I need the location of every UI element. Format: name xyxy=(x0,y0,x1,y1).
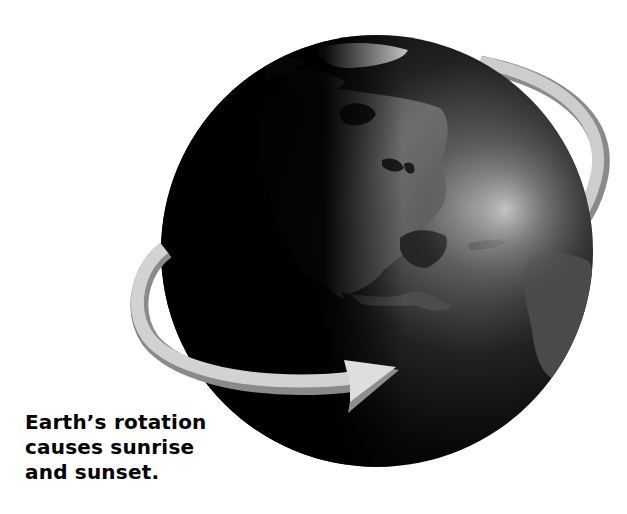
caption-line-1: Earth’s rotation xyxy=(25,410,225,435)
caption-line-3: and sunset. xyxy=(25,460,225,485)
caption-line-2: causes sunrise xyxy=(25,435,225,460)
sunlight-highlight xyxy=(410,115,600,305)
figure-caption: Earth’s rotation causes sunrise and suns… xyxy=(25,410,225,485)
